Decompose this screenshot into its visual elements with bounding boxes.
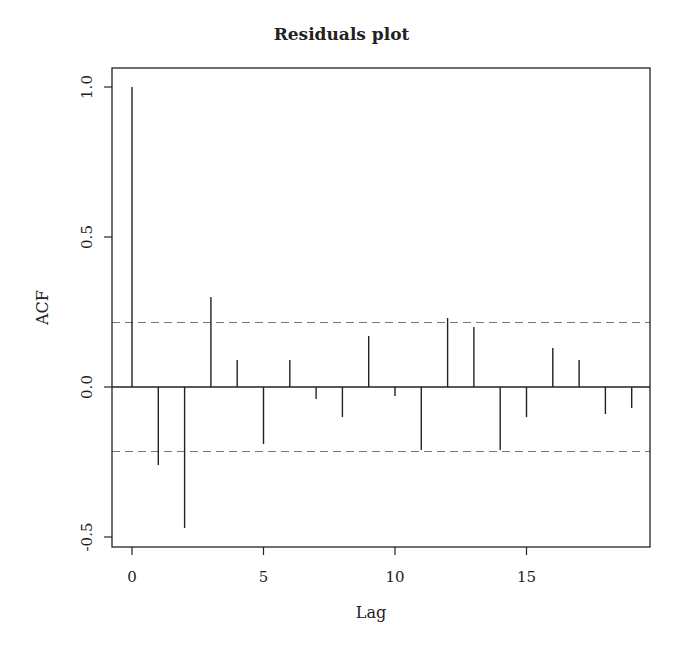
x-axis-label: Lag bbox=[356, 603, 386, 622]
x-axis: 051015 bbox=[127, 547, 536, 586]
acf-plot: 051015 -0.50.00.51.0 Lag ACF bbox=[0, 0, 683, 654]
y-axis-label: ACF bbox=[33, 290, 52, 326]
x-tick-label: 15 bbox=[517, 568, 536, 586]
x-tick-label: 10 bbox=[385, 568, 404, 586]
y-tick-label: 0.5 bbox=[78, 225, 96, 249]
y-axis: -0.50.00.51.0 bbox=[78, 75, 112, 551]
y-tick-label: 1.0 bbox=[78, 75, 96, 99]
y-tick-label: 0.0 bbox=[78, 375, 96, 399]
x-tick-label: 0 bbox=[127, 568, 137, 586]
plot-frame bbox=[112, 68, 650, 547]
acf-stems bbox=[132, 87, 632, 528]
x-tick-label: 5 bbox=[259, 568, 269, 586]
y-tick-label: -0.5 bbox=[78, 523, 96, 552]
